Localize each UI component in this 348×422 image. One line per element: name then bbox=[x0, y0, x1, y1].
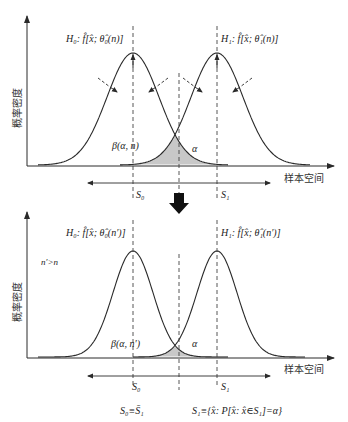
bottom-beta-label: β(α, n′) bbox=[110, 338, 141, 350]
bottom-h0-label: H₀: f̂[x̂; θ̂₀(n′)] bbox=[65, 226, 126, 239]
s1-definition-formula: S₁≡{x̂: P[x̂: x̂∈S₁]=α} bbox=[192, 405, 282, 416]
top-panel: 概率密度 样本空间 H₀: f̂[x̂; θ̂₀(n)] H₁: f̂[x̂; … bbox=[11, 16, 334, 200]
bottom-x-axis-label: 样本空间 bbox=[284, 363, 324, 375]
bottom-h1-density-curve bbox=[133, 251, 305, 357]
top-x-axis-label: 样本空间 bbox=[284, 172, 324, 184]
top-beta-label: β(α, n) bbox=[111, 140, 140, 152]
top-y-axis-label: 概率密度 bbox=[11, 88, 23, 128]
bottom-sample-size-note: n′>n bbox=[41, 257, 59, 267]
s0-definition-formula: S₀≡S̄₁ bbox=[120, 405, 144, 416]
top-s1-label: S₁ bbox=[221, 189, 229, 200]
top-s0-label: S₀ bbox=[136, 189, 145, 200]
top-h0-label: H₀: f̂[x̂; θ̂₀(n)] bbox=[65, 32, 124, 45]
top-h1-density-curve bbox=[120, 53, 310, 165]
bottom-panel: 概率密度 样本空间 H₀: f̂[x̂; θ̂₀(n′)] H₁: f̂[x̂;… bbox=[11, 212, 334, 416]
bottom-y-axis-label: 概率密度 bbox=[11, 282, 23, 322]
bottom-s1-label: S₁ bbox=[221, 381, 229, 392]
down-arrow-icon bbox=[169, 193, 189, 214]
bottom-alpha-label: α bbox=[192, 338, 198, 349]
diagram-canvas: 概率密度 样本空间 H₀: f̂[x̂; θ̂₀(n)] H₁: f̂[x̂; … bbox=[0, 0, 348, 422]
bottom-s0-label: S₀ bbox=[132, 381, 141, 392]
bottom-h1-label: H₁: f̂[x̂; θ̂₁(n′)] bbox=[220, 226, 281, 239]
top-h1-label: H₁: f̂[x̂; θ̂₁(n)] bbox=[220, 32, 279, 45]
top-alpha-label: α bbox=[192, 143, 198, 154]
